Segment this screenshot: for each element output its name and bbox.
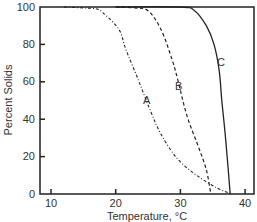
curve-label-c: C	[217, 56, 225, 68]
curve-b	[116, 7, 211, 194]
y-axis-title: Percent Solids	[2, 64, 14, 135]
curve-c	[116, 7, 231, 194]
y-tick-label: 80	[23, 38, 35, 50]
curve-label-b: B	[175, 80, 182, 92]
x-tick-label: 40	[239, 197, 251, 209]
y-axis: 0 20 40 60 80 100 Percent Solids	[2, 1, 45, 200]
x-axis-title: Temperature, °C	[107, 210, 187, 222]
y-tick-label: 0	[29, 188, 35, 200]
x-tick-label: 30	[174, 197, 186, 209]
chart: 0 20 40 60 80 100 Percent Solids 10 20 3…	[0, 0, 257, 222]
x-tick-label: 20	[110, 197, 122, 209]
curve-label-a: A	[143, 94, 151, 106]
x-tick-label: 10	[45, 197, 57, 209]
y-tick-label: 100	[17, 1, 35, 13]
y-tick-label: 20	[23, 150, 35, 162]
y-tick-label: 40	[23, 113, 35, 125]
y-tick-label: 60	[23, 75, 35, 87]
